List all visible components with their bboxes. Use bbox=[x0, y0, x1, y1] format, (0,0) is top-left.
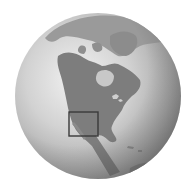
globe-shading bbox=[15, 13, 181, 179]
globe-locator-map bbox=[0, 0, 189, 184]
